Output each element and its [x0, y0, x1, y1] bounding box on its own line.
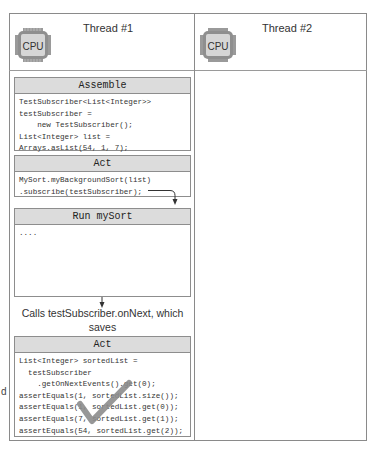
svg-text:CPU: CPU: [207, 41, 228, 52]
column-divider: [194, 13, 195, 441]
panel-title: Act: [15, 156, 190, 172]
assemble-panel: Assemble TestSubscriber<List<Integer>> t…: [14, 77, 191, 151]
code-block: List<Integer> sortedList = testSubscribe…: [15, 353, 190, 440]
code-block: TestSubscriber<List<Integer>> testSubscr…: [15, 94, 190, 158]
act-panel-2: Act List<Integer> sortedList = testSubsc…: [14, 336, 191, 437]
code-block: MySort.myBackgroundSort(list) .subscribe…: [15, 172, 190, 201]
run-mysort-panel: Run mySort ....: [14, 208, 191, 297]
cpu-icon: CPU: [200, 28, 236, 62]
panel-title: Assemble: [15, 78, 190, 94]
thread-2-title: Thread #2: [262, 22, 312, 34]
caption-line-1: Calls testSubscriber.onNext, which saves: [14, 306, 191, 334]
cropped-side-label: d: [1, 386, 7, 397]
thread-1-title: Thread #1: [83, 22, 133, 34]
panel-title: Act: [15, 337, 190, 353]
cpu-icon: CPU: [15, 28, 51, 62]
code-block: ....: [15, 225, 190, 243]
act-panel-1: Act MySort.myBackgroundSort(list) .subsc…: [14, 155, 191, 197]
svg-text:CPU: CPU: [22, 41, 43, 52]
header-divider: [9, 70, 367, 71]
panel-title: Run mySort: [15, 209, 190, 225]
